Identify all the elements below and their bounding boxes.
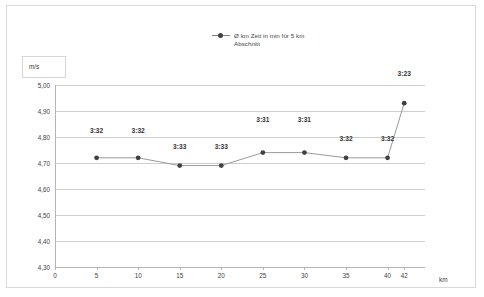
data-point-label: 3:33 (215, 143, 228, 150)
x-axis-tick-mark (97, 267, 98, 270)
data-point-marker (219, 163, 224, 168)
chart-frame: Ø km Zeit in min für 5 km Abschnitt m/s … (6, 5, 476, 288)
x-axis-tick-mark (346, 267, 347, 270)
x-axis-tick-label: 20 (218, 272, 225, 279)
y-axis-tick-label: 4,30 (38, 264, 50, 271)
x-axis-tick-mark (404, 267, 405, 270)
x-axis-tick-label: 15 (176, 272, 183, 279)
x-axis-tick-label: 25 (259, 272, 266, 279)
series-line-chart (55, 85, 425, 267)
x-axis-tick-label: 30 (301, 272, 308, 279)
data-point-marker (344, 155, 349, 160)
y-axis-unit-box: m/s (22, 56, 66, 78)
data-point-marker (385, 155, 390, 160)
x-axis-tick-label: 10 (135, 272, 142, 279)
x-axis-tick-mark (388, 267, 389, 270)
x-axis-tick-label: 40 (384, 272, 391, 279)
data-point-marker (302, 150, 307, 155)
data-point-label: 3:32 (339, 135, 352, 142)
data-point-label: 3:23 (398, 70, 411, 77)
x-axis-tick-mark (138, 267, 139, 270)
plot-area: 4,304,404,504,604,704,804,905,00 0510152… (55, 85, 425, 267)
y-axis-tick-label: 4,90 (38, 108, 50, 115)
series-marker-icon (212, 35, 230, 36)
data-point-label: 3:32 (381, 135, 394, 142)
data-point-marker (177, 163, 182, 168)
y-axis-tick-label: 4,40 (38, 238, 50, 245)
y-axis-tick-label: 4,50 (38, 212, 50, 219)
x-axis-tick-mark (304, 267, 305, 270)
data-point-marker (94, 155, 99, 160)
y-axis-tick-label: 4,80 (38, 134, 50, 141)
x-axis-tick-label: 5 (95, 272, 99, 279)
x-axis-line (55, 267, 425, 268)
x-axis-tick-mark (263, 267, 264, 270)
data-point-marker (402, 101, 407, 106)
data-point-label: 3:33 (173, 143, 186, 150)
data-point-label: 3:31 (298, 116, 311, 123)
chart-legend: Ø km Zeit in min für 5 km Abschnitt (212, 32, 372, 48)
data-point-label: 3:32 (132, 127, 145, 134)
x-axis-tick-label: 35 (342, 272, 349, 279)
y-axis-tick-label: 5,00 (38, 82, 50, 89)
x-axis-tick-mark (55, 267, 56, 270)
x-axis-tick-mark (221, 267, 222, 270)
chart-screenshot: Ø km Zeit in min für 5 km Abschnitt m/s … (0, 0, 484, 297)
y-axis-unit-label: m/s (29, 63, 39, 70)
series-line (97, 103, 405, 165)
y-axis-tick-label: 4,70 (38, 160, 50, 167)
data-point-marker (136, 155, 141, 160)
y-axis-tick-label: 4,60 (38, 186, 50, 193)
x-axis-tick-mark (180, 267, 181, 270)
x-axis-tick-label: 42 (401, 272, 408, 279)
data-point-marker (260, 150, 265, 155)
data-point-label: 3:32 (90, 127, 103, 134)
legend-label: Ø km Zeit in min für 5 km Abschnitt (234, 32, 304, 48)
x-axis-title: km (439, 276, 448, 283)
x-axis-tick-label: 0 (53, 272, 57, 279)
data-point-label: 3:31 (256, 116, 269, 123)
